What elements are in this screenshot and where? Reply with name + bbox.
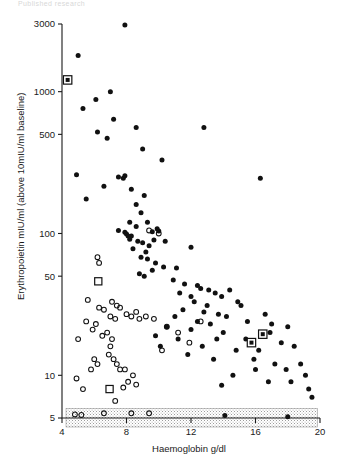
point-filled-circle: [224, 314, 229, 319]
point-filled-circle: [116, 175, 121, 180]
y-tick-label: 10: [44, 370, 55, 381]
point-filled-circle: [309, 395, 314, 400]
point-open-circle: [110, 337, 115, 342]
point-filled-square-highlight: [259, 330, 267, 338]
point-filled-circle: [201, 309, 206, 314]
point-filled-circle: [127, 237, 132, 242]
point-filled-circle: [266, 379, 271, 384]
point-filled-circle: [238, 303, 243, 308]
point-filled-circle: [272, 362, 277, 367]
point-open-circle: [97, 261, 102, 266]
point-filled-circle: [292, 344, 297, 349]
point-filled-circle: [116, 228, 121, 233]
point-filled-circle: [298, 362, 303, 367]
x-tick-label: 20: [315, 426, 326, 437]
point-filled-circle: [153, 260, 158, 265]
page-header-faint: Published research: [18, 0, 85, 7]
point-filled-circle: [145, 257, 150, 262]
point-filled-circle: [134, 125, 139, 130]
point-filled-square-highlight: [247, 338, 255, 346]
point-filled-circle: [288, 379, 293, 384]
point-filled-circle: [172, 314, 177, 319]
y-tick-label: 5: [50, 412, 55, 423]
point-open-circle: [113, 399, 118, 404]
x-tick-label: 16: [250, 426, 261, 437]
point-filled-circle: [200, 344, 205, 349]
point-filled-circle: [139, 210, 144, 215]
point-filled-circle: [189, 327, 194, 332]
scatter-plot: 5105010050010003000 48121620 Erythropoie…: [0, 0, 337, 470]
point-open-circle: [152, 316, 157, 321]
point-filled-circle: [150, 268, 155, 273]
point-filled-circle: [284, 367, 289, 372]
point-filled-circle: [201, 125, 206, 130]
point-open-circle: [187, 340, 192, 345]
point-filled-circle: [134, 224, 139, 229]
point-open-circle: [129, 314, 134, 319]
point-filled-circle: [142, 193, 147, 198]
point-filled-circle: [222, 413, 227, 418]
point-filled-circle: [189, 245, 194, 250]
point-filled-circle: [93, 97, 98, 102]
point-filled-circle: [145, 220, 150, 225]
point-filled-circle: [143, 250, 148, 255]
point-filled-circle: [214, 337, 219, 342]
point-filled-circle: [306, 387, 311, 392]
point-open-circle: [85, 298, 90, 303]
point-filled-circle: [137, 271, 142, 276]
point-filled-circle: [135, 239, 140, 244]
point-filled-circle: [130, 246, 135, 251]
point-filled-circle: [140, 146, 145, 151]
point-open-circle: [111, 357, 116, 362]
point-filled-circle: [101, 184, 106, 189]
x-tick-labels: 48121620: [59, 426, 325, 437]
point-filled-circle: [74, 172, 79, 177]
point-open-circle: [105, 330, 110, 335]
axes: [58, 24, 320, 423]
point-filled-circle: [198, 286, 203, 291]
point-filled-circle: [189, 294, 194, 299]
point-open-circle: [124, 312, 129, 317]
point-filled-circle: [263, 312, 268, 317]
x-tick-label: 8: [124, 426, 129, 437]
y-tick-label: 50: [44, 271, 55, 282]
point-filled-circle: [216, 312, 221, 317]
point-open-circle: [113, 316, 118, 321]
point-filled-circle: [182, 282, 187, 287]
point-filled-circle: [219, 294, 224, 299]
point-filled-circle: [122, 173, 127, 178]
y-tick-label: 100: [39, 228, 55, 239]
point-filled-circle: [163, 239, 168, 244]
point-open-square: [106, 385, 113, 392]
point-filled-circle: [140, 240, 145, 245]
x-tick-label: 12: [186, 426, 197, 437]
point-open-circle: [143, 314, 148, 319]
x-axis-title: Haemoglobin g/dl: [152, 443, 226, 454]
point-open-circle: [97, 305, 102, 310]
y-tick-labels: 5105010050010003000: [34, 18, 55, 423]
point-open-circle: [95, 255, 100, 260]
point-filled-circle: [111, 117, 116, 122]
point-filled-circle: [171, 277, 176, 282]
point-filled-circle: [176, 337, 181, 342]
point-filled-circle: [213, 291, 218, 296]
point-filled-circle: [285, 414, 290, 419]
point-open-circle: [95, 362, 100, 367]
point-filled-circle: [211, 357, 216, 362]
point-open-circle: [134, 309, 139, 314]
point-filled-circle: [108, 89, 113, 94]
point-open-circle: [90, 327, 95, 332]
point-open-circle: [108, 314, 113, 319]
point-filled-circle: [256, 348, 261, 353]
point-filled-circle: [129, 187, 134, 192]
point-filled-square-highlight: [63, 76, 71, 84]
point-open-circle: [76, 337, 81, 342]
point-filled-circle: [227, 287, 232, 292]
point-filled-circle: [303, 373, 308, 378]
point-filled-circle: [234, 348, 239, 353]
point-open-circle: [121, 385, 126, 390]
data-points: [63, 23, 314, 420]
point-open-circle: [110, 299, 115, 304]
x-tick-label: 4: [59, 426, 64, 437]
point-filled-circle: [205, 303, 210, 308]
